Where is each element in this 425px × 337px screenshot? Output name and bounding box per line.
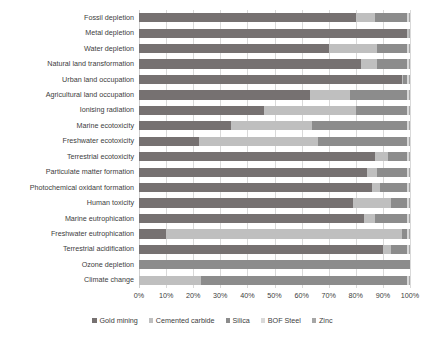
plot-area: [139, 10, 410, 288]
category-label: Metal depletion: [0, 29, 134, 37]
stacked-bar-chart: Fossil depletionMetal depletionWater dep…: [0, 0, 425, 337]
x-tick-label: 80%: [349, 291, 363, 300]
bar-segment: [377, 44, 407, 53]
bar-segment: [409, 198, 410, 207]
legend-swatch-icon: [92, 318, 97, 323]
bar-segment: [139, 59, 361, 68]
bar-segment: [231, 121, 312, 130]
bar-segment: [409, 59, 410, 68]
bar-segment: [353, 198, 391, 207]
bar-row: [139, 90, 410, 99]
legend-item[interactable]: Silica: [226, 316, 250, 325]
category-label: Ozone depletion: [0, 261, 134, 269]
bar-segment: [139, 75, 402, 84]
chart-legend: Gold miningCemented carbideSilicaBOF Ste…: [0, 316, 425, 325]
x-tick-label: 40%: [240, 291, 254, 300]
bar-segment: [264, 106, 356, 115]
category-label: Marine ecotoxicity: [0, 122, 134, 130]
bar-segment: [409, 75, 410, 84]
x-tick-label: 10%: [159, 291, 173, 300]
x-tick-label: 90%: [376, 291, 390, 300]
bar-segment: [201, 276, 407, 285]
bar-segment: [139, 13, 356, 22]
bar-segment: [409, 168, 410, 177]
x-tick-label: 100%: [401, 291, 419, 300]
bar-row: [139, 29, 410, 38]
bar-segment: [409, 137, 410, 146]
bar-row: [139, 121, 410, 130]
bar-segment: [139, 90, 310, 99]
bar-segment: [139, 183, 372, 192]
bar-row: [139, 137, 410, 146]
value-axis-labels: 0%10%20%30%40%50%60%70%80%90%100%: [139, 289, 410, 303]
x-tick-label: 50%: [267, 291, 281, 300]
bar-row: [139, 276, 410, 285]
bar-segment: [409, 245, 410, 254]
legend-label: Silica: [233, 316, 250, 325]
bar-row: [139, 214, 410, 223]
bar-row: [139, 59, 410, 68]
category-axis-labels: Fossil depletionMetal depletionWater dep…: [0, 10, 134, 288]
bar-segment: [409, 106, 410, 115]
category-label: Freshwater eutrophication: [0, 230, 134, 238]
category-label: Agricultural land occupation: [0, 91, 134, 99]
bar-row: [139, 198, 410, 207]
legend-swatch-icon: [261, 318, 266, 323]
x-tick-label: 60%: [294, 291, 308, 300]
legend-swatch-icon: [226, 318, 231, 323]
legend-label: BOF Steel: [268, 316, 301, 325]
bar-segment: [139, 44, 329, 53]
bar-row: [139, 44, 410, 53]
bar-segment: [139, 152, 375, 161]
bar-segment: [350, 90, 407, 99]
bar-row: [139, 106, 410, 115]
gridline-100%: [410, 10, 411, 288]
bar-segment: [409, 214, 410, 223]
bar-segment: [364, 214, 375, 223]
bar-segment: [139, 168, 367, 177]
category-label: Natural land transformation: [0, 60, 134, 68]
x-tick-label: 20%: [186, 291, 200, 300]
bar-segment: [380, 183, 407, 192]
category-label: Freshwater ecotoxicity: [0, 137, 134, 145]
legend-item[interactable]: Cemented carbide: [149, 316, 215, 325]
bar-segment: [372, 183, 380, 192]
legend-item[interactable]: Gold mining: [92, 316, 137, 325]
bar-segment: [391, 245, 407, 254]
category-label: Climate change: [0, 276, 134, 284]
bar-segment: [409, 90, 410, 99]
category-label: Fossil depletion: [0, 14, 134, 22]
bar-segment: [312, 121, 407, 130]
legend-item[interactable]: BOF Steel: [261, 316, 301, 325]
bar-row: [139, 183, 410, 192]
bar-segment: [356, 13, 375, 22]
bar-row: [139, 152, 410, 161]
bar-segment: [139, 260, 410, 269]
x-tick-label: 70%: [321, 291, 335, 300]
x-tick-label: 0%: [134, 291, 144, 300]
bar-segment: [367, 168, 378, 177]
bar-segment: [139, 198, 353, 207]
bar-segment: [377, 168, 407, 177]
legend-label: Gold mining: [99, 316, 137, 325]
category-label: Water depletion: [0, 45, 134, 53]
bar-segment: [356, 106, 407, 115]
category-label: Terrestrial acidification: [0, 245, 134, 253]
bar-segment: [383, 245, 391, 254]
bar-segment: [375, 214, 408, 223]
category-label: Human toxicity: [0, 199, 134, 207]
bar-rows: [139, 10, 410, 288]
bar-row: [139, 229, 410, 238]
bar-row: [139, 245, 410, 254]
category-label: Ionising radiation: [0, 106, 134, 114]
legend-label: Cemented carbide: [156, 316, 215, 325]
legend-item[interactable]: Zinc: [312, 316, 333, 325]
category-label: Terrestrial ecotoxicity: [0, 153, 134, 161]
legend-label: Zinc: [319, 316, 333, 325]
bar-segment: [139, 229, 166, 238]
bar-segment: [375, 13, 408, 22]
bar-segment: [377, 59, 407, 68]
category-label: Marine eutrophication: [0, 215, 134, 223]
bar-segment: [375, 152, 389, 161]
bar-segment: [409, 13, 410, 22]
